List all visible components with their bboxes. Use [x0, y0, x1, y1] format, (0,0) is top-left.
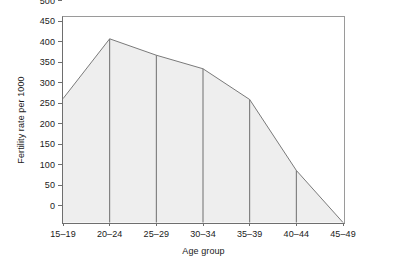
- y-tick: 50: [45, 179, 62, 191]
- y-tick-label: 350: [40, 56, 55, 68]
- y-axis-ticks: 050100150200250300350400450500: [0, 0, 62, 206]
- y-tick: 150: [40, 138, 62, 150]
- y-tick: 300: [40, 77, 62, 89]
- x-axis-ticks: 15–1920–2425–2930–3435–3940–4445–49: [62, 223, 345, 247]
- y-tick-label: 0: [50, 200, 55, 212]
- plot-inner: [63, 17, 344, 223]
- fertility-area-series: [63, 17, 344, 223]
- y-tick: 200: [40, 118, 62, 130]
- y-tick-label: 450: [40, 15, 55, 27]
- x-tick-mark: [343, 223, 344, 226]
- y-tick: 500: [40, 0, 62, 7]
- y-tick: 350: [40, 56, 62, 68]
- x-tick-mark: [156, 223, 157, 226]
- chart-figure: Fertility rate per 1000 0501001502002503…: [0, 0, 402, 268]
- y-tick-label: 150: [40, 138, 55, 150]
- y-tick: 250: [40, 97, 62, 109]
- y-tick-label: 300: [40, 77, 55, 89]
- y-tick-label: 200: [40, 118, 55, 130]
- x-tick-mark: [109, 223, 110, 226]
- x-axis-title: Age group: [62, 245, 345, 257]
- x-tick: 45–49: [313, 223, 373, 240]
- y-tick-label: 400: [40, 36, 55, 48]
- y-tick-label: 50: [45, 179, 55, 191]
- y-tick-label: 100: [40, 159, 55, 171]
- y-tick-label: 250: [40, 97, 55, 109]
- x-tick-mark: [203, 223, 204, 226]
- x-tick-mark: [249, 223, 250, 226]
- y-tick: 100: [40, 159, 62, 171]
- y-tick: 450: [40, 15, 62, 27]
- y-tick: 0: [50, 200, 62, 212]
- plot-area: [62, 16, 345, 224]
- x-tick-label: 45–49: [313, 229, 373, 240]
- x-tick-mark: [296, 223, 297, 226]
- y-tick-label: 500: [40, 0, 55, 7]
- y-tick: 400: [40, 36, 62, 48]
- x-tick-mark: [63, 223, 64, 226]
- y-tick-mark: [58, 0, 62, 1]
